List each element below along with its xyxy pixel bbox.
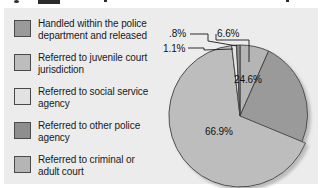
legend-item-handled-police: Handled within the police department and… [14,18,172,46]
pie-slices [169,45,308,187]
chart-figure: Handled within the police department and… [0,0,322,188]
legend-item-label: Referred to criminal or adult court [38,154,135,177]
legend-item-other-police: Referred to other police agency [14,120,172,148]
legend-swatch-icon [14,20,31,37]
pie-label-24-6: 24.6% [234,74,262,85]
legend-swatch-icon [14,54,31,71]
legend: Handled within the police department and… [14,18,172,188]
legend-swatch-icon [14,122,31,139]
pie-label-6-6: 6.6% [217,28,239,39]
pie-label-66-9: 66.9% [205,126,233,137]
legend-item-criminal-adult-court: Referred to criminal or adult court [14,154,172,182]
legend-item-label: Handled within the police department and… [38,18,147,41]
legend-item-label: Referred to social service agency [38,86,148,109]
chart-panel: Handled within the police department and… [4,8,318,184]
pie-label-0-8: .8% [169,28,186,39]
legend-swatch-icon [14,156,31,173]
pie-label-1-1: 1.1% [163,43,185,54]
legend-item-label: Referred to juvenile court jurisdiction [38,52,147,75]
cropped-title-sliver [0,0,322,5]
pie-chart: 24.6% 66.9% 6.6% .8% 1.1% [164,14,322,188]
legend-item-juvenile-court: Referred to juvenile court jurisdiction [14,52,172,80]
legend-item-social-service: Referred to social service agency [14,86,172,114]
legend-item-label: Referred to other police agency [38,120,140,143]
legend-swatch-icon [14,88,31,105]
pie-svg [164,14,322,188]
